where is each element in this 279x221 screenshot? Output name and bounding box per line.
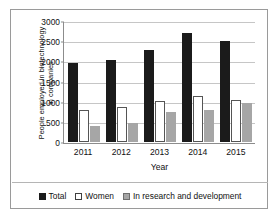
legend-swatch-total-icon — [39, 193, 46, 200]
y-axis-tick-label: 500 — [46, 118, 60, 128]
legend-item-rnd[interactable]: In research and development — [123, 191, 241, 201]
x-axis-tick-label: 2011 — [64, 147, 102, 157]
x-axis-tick-label: 2013 — [140, 147, 178, 157]
legend-swatch-women-icon — [75, 193, 82, 200]
legend-label: Total — [49, 191, 67, 201]
legend-label: Women — [85, 191, 114, 201]
bar-women-2015[interactable] — [231, 100, 241, 142]
bar-total-2011[interactable] — [68, 63, 78, 142]
bar-total-2012[interactable] — [106, 60, 116, 142]
x-axis-tick-label: 2014 — [179, 147, 217, 157]
chart-legend: TotalWomenIn research and development — [12, 182, 268, 209]
y-axis-tick-mark — [61, 82, 64, 83]
y-axis-tick-mark — [61, 22, 64, 23]
bar-group — [65, 22, 103, 142]
bar-women-2012[interactable] — [117, 107, 127, 142]
legend-label: In research and development — [133, 191, 241, 201]
x-axis-tick-label: 2012 — [102, 147, 140, 157]
y-axis-tick-mark — [61, 102, 64, 103]
bar-rnd-2014[interactable] — [204, 110, 214, 142]
bar-group — [217, 22, 255, 142]
bar-rnd-2013[interactable] — [166, 112, 176, 142]
bar-groups — [65, 22, 255, 142]
legend-swatch-rnd-icon — [123, 193, 130, 200]
y-axis-tick-label: 1000 — [41, 98, 60, 108]
bar-rnd-2012[interactable] — [128, 123, 138, 142]
y-axis-tick-mark — [61, 62, 64, 63]
chart-container: People employed in biotechnology in comp… — [10, 9, 268, 209]
y-axis-tick-mark — [61, 122, 64, 123]
y-axis-tick-mark — [61, 42, 64, 43]
bar-group — [103, 22, 141, 142]
bar-group — [179, 22, 217, 142]
bar-women-2014[interactable] — [193, 96, 203, 142]
legend-item-women[interactable]: Women — [75, 191, 114, 201]
x-axis-tick-label: 2015 — [217, 147, 255, 157]
legend-item-total[interactable]: Total — [39, 191, 67, 201]
x-axis-tick-labels: 20112012201320142015 — [64, 147, 255, 157]
bar-rnd-2011[interactable] — [90, 126, 100, 142]
y-axis-tick-mark — [61, 143, 64, 144]
bar-women-2013[interactable] — [155, 101, 165, 142]
bar-total-2014[interactable] — [182, 33, 192, 142]
bar-total-2013[interactable] — [144, 50, 154, 142]
y-axis-tick-label: 2500 — [41, 37, 60, 47]
bar-women-2011[interactable] — [79, 110, 89, 142]
y-axis-tick-label: 2000 — [41, 57, 60, 67]
bar-total-2015[interactable] — [220, 41, 230, 142]
plot-area: 050010001500200025003000 — [63, 22, 255, 144]
x-axis-title: Year — [64, 162, 255, 172]
plot-inner: 050010001500200025003000 — [63, 22, 255, 144]
y-axis-title-wrap: People employed in biotechnology in comp… — [13, 10, 39, 156]
bar-group — [141, 22, 179, 142]
y-axis-tick-label: 0 — [55, 138, 60, 148]
bar-rnd-2015[interactable] — [242, 103, 252, 142]
y-axis-tick-label: 1500 — [41, 78, 60, 88]
y-axis-tick-label: 3000 — [41, 17, 60, 27]
